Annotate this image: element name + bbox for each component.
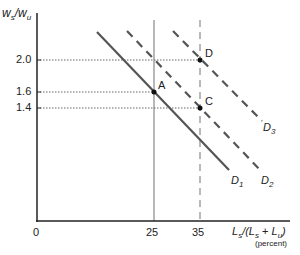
y-axis-label: ws/wu	[2, 6, 31, 22]
y-tick-2-0: 2.0	[16, 53, 31, 65]
point-c-label: C	[205, 95, 213, 107]
x-tick-0: 0	[33, 226, 39, 238]
x-axis-unit: (percent)	[255, 239, 287, 248]
y-tick-1-4: 1.4	[16, 101, 31, 113]
curve-d1-label: D1	[231, 174, 243, 189]
point-d	[198, 58, 203, 63]
curve-d3-label: D3	[263, 121, 275, 136]
x-tick-25: 25	[146, 226, 158, 238]
point-a-label: A	[158, 79, 165, 91]
x-tick-35: 35	[192, 226, 204, 238]
point-a	[152, 90, 157, 95]
curve-d2-label: D2	[261, 174, 273, 189]
chart-canvas	[0, 0, 300, 255]
point-d-label: D	[205, 47, 213, 59]
curve-d3	[173, 31, 262, 121]
y-tick-1-6: 1.6	[16, 85, 31, 97]
point-c	[198, 106, 203, 111]
x-axis-label: Ls/(Ls + Lu)	[232, 225, 286, 240]
